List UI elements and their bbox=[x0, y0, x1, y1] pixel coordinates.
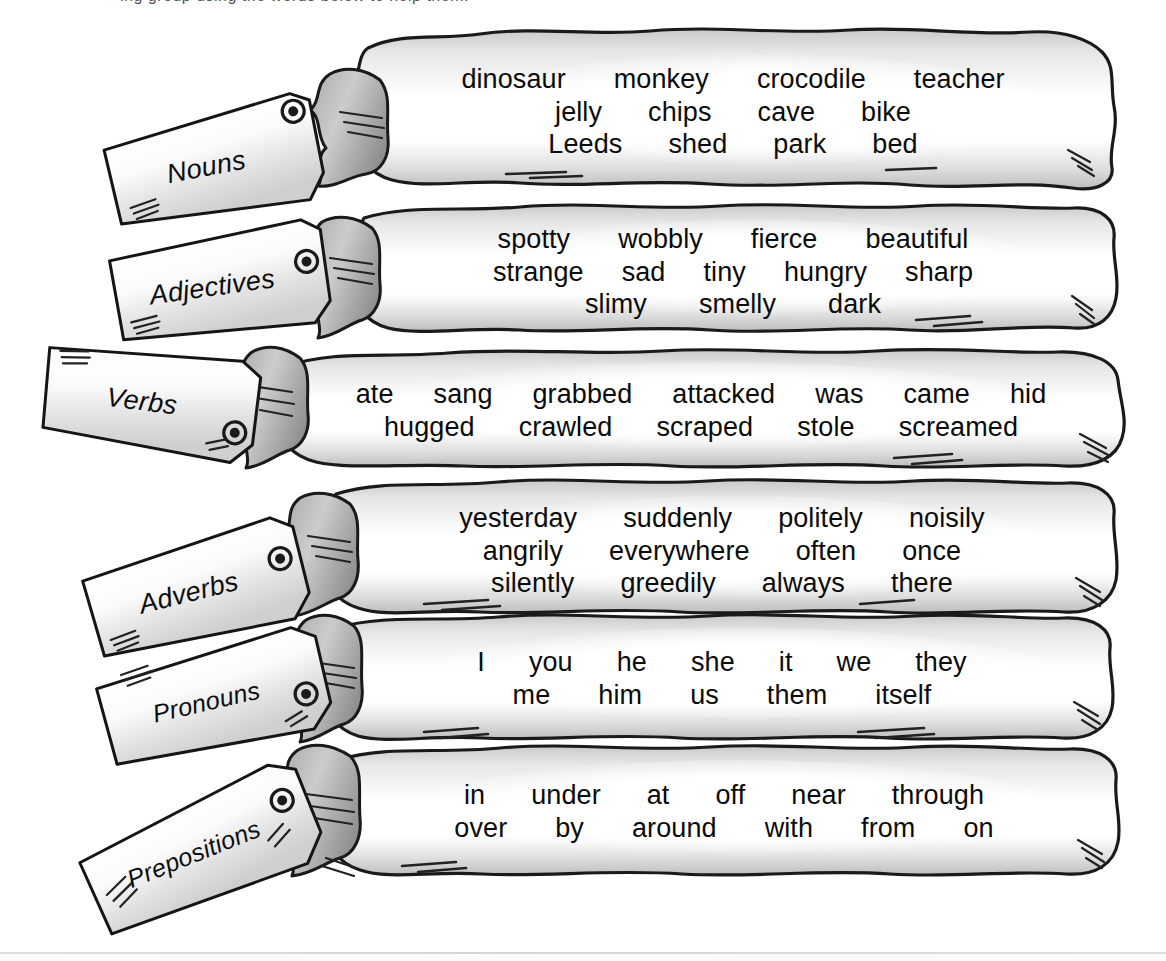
tag-prepositions[interactable]: Prepositions bbox=[69, 752, 337, 947]
sack-adjectives-shape bbox=[330, 196, 1136, 348]
illustration-canvas: ing group using the words below to help … bbox=[0, 0, 1166, 961]
cut-off-header-label: ing group using the words below to help … bbox=[120, 0, 469, 5]
tag-prepositions-shape bbox=[69, 752, 337, 947]
sack-verbs: ate sang grabbed attacked was came hid h… bbox=[258, 340, 1144, 482]
sack-pronouns: I you he she it we they me him us them i… bbox=[306, 606, 1138, 752]
page-bottom-fill bbox=[0, 954, 1166, 961]
sack-nouns: dinosaur monkey crocodile teacher jelly … bbox=[330, 22, 1136, 202]
sack-pronouns-shape bbox=[306, 606, 1138, 752]
page-bottom-rule bbox=[0, 952, 1166, 954]
sack-adjectives: spotty wobbly fierce beautiful strange s… bbox=[330, 196, 1136, 348]
sack-nouns-shape bbox=[330, 22, 1136, 202]
sack-prepositions: in under at off near through over by aro… bbox=[306, 736, 1142, 888]
cut-off-header-text: ing group using the words below to help … bbox=[0, 0, 1166, 12]
sack-verbs-shape bbox=[258, 340, 1144, 482]
sack-prepositions-shape bbox=[306, 736, 1142, 888]
